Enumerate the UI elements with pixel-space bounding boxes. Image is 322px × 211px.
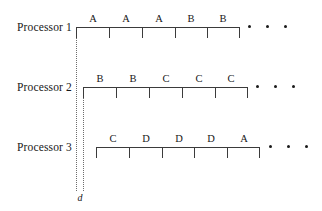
tick-3: [175, 27, 176, 38]
tick-1: [116, 87, 117, 98]
ellipsis-dot: [287, 145, 290, 148]
tick-2: [162, 147, 163, 158]
ellipsis-dot: [266, 25, 269, 28]
ellipsis-dot: [274, 85, 277, 88]
ellipsis-dot: [305, 145, 308, 148]
tick-2: [142, 27, 143, 38]
tick-start: [83, 87, 84, 98]
segment-letter: C: [162, 74, 169, 85]
tick-4: [215, 87, 216, 98]
timeline-bar: [83, 87, 248, 88]
tick-start: [96, 147, 97, 158]
segment-letter: B: [96, 74, 103, 85]
segment-letter: D: [142, 134, 150, 145]
segment-letter: C: [227, 74, 234, 85]
timeline-processor-3: [96, 147, 260, 158]
guide-line-offset: [83, 87, 84, 191]
tick-start: [76, 27, 77, 38]
tick-2: [149, 87, 150, 98]
timeline-processor-2: [83, 87, 248, 98]
processor-timeline-diagram: Processor 1 A A A B B Processor 2 B B C …: [0, 0, 322, 211]
tick-4: [227, 147, 228, 158]
tick-4: [207, 27, 208, 38]
segment-letter: A: [89, 14, 97, 25]
timeline-bar: [96, 147, 260, 148]
tick-end: [247, 87, 248, 98]
tick-end: [259, 147, 260, 158]
segment-letter: A: [155, 14, 163, 25]
tick-3: [182, 87, 183, 98]
ellipsis-dot: [269, 145, 272, 148]
tick-3: [194, 147, 195, 158]
guide-line-origin: [76, 27, 77, 191]
timeline-bar: [76, 27, 240, 28]
offset-marker-label: d: [78, 193, 83, 203]
ellipsis-dot: [292, 85, 295, 88]
tick-1: [109, 27, 110, 38]
segment-letter: D: [207, 134, 215, 145]
ellipsis-dot: [256, 85, 259, 88]
tick-end: [239, 27, 240, 38]
segment-letter: A: [122, 14, 130, 25]
segment-letter: C: [195, 74, 202, 85]
row-label-processor-2: Processor 2: [8, 82, 72, 94]
tick-1: [129, 147, 130, 158]
segment-letter: D: [175, 134, 183, 145]
segment-letter: B: [129, 74, 136, 85]
timeline-processor-1: [76, 27, 240, 38]
segment-letter: C: [109, 134, 116, 145]
segment-letter: A: [240, 134, 248, 145]
segment-letter: B: [187, 14, 194, 25]
ellipsis-dot: [284, 25, 287, 28]
row-label-processor-3: Processor 3: [8, 142, 72, 154]
segment-letter: B: [219, 14, 226, 25]
ellipsis-dot: [248, 25, 251, 28]
row-label-processor-1: Processor 1: [8, 22, 72, 34]
